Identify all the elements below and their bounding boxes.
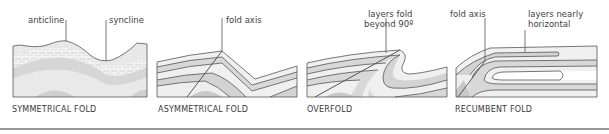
overfold-label-line2: beyond 90º — [364, 19, 413, 29]
recumbent-label-line1: layers nearly — [528, 9, 583, 19]
asymmetrical-fold-panel: fold axis ASYMMETRICAL FOLD — [150, 0, 300, 120]
overfold-caption: OVERFOLD — [307, 105, 352, 114]
anticline-label: anticline — [28, 15, 64, 25]
overfold-label-line1: layers fold — [368, 9, 412, 19]
fold-axis-label: fold axis — [226, 15, 262, 25]
overfold-panel: layers fold beyond 90º OVERFOLD — [300, 0, 450, 120]
symmetrical-fold-caption: SYMMETRICAL FOLD — [12, 105, 96, 114]
recumbent-label-line2: horizontal — [528, 19, 570, 29]
asymmetrical-fold-diagram — [150, 0, 300, 110]
recumbent-fold-caption: RECUMBENT FOLD — [455, 105, 532, 114]
symmetrical-fold-panel: anticline syncline SYMMETRICAL FOLD — [0, 0, 150, 120]
bottom-rule — [0, 128, 609, 130]
asymmetrical-fold-caption: ASYMMETRICAL FOLD — [158, 105, 248, 114]
syncline-label: syncline — [109, 15, 144, 25]
recumbent-fold-panel: fold axis layers nearly horizontal RECUM… — [450, 0, 609, 120]
fold-axis-label: fold axis — [450, 9, 486, 19]
